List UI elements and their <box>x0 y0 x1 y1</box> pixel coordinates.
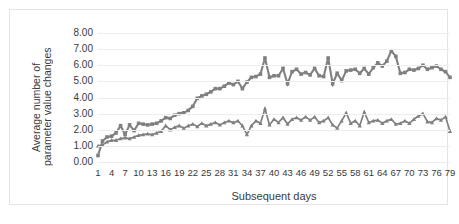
y-axis-tick-label: 2.00 <box>74 125 93 135</box>
x-axis-title: Subsequent days <box>98 190 450 202</box>
data-point-square <box>141 122 145 126</box>
x-axis-tick-label: 34 <box>242 167 253 178</box>
data-point-square <box>304 71 308 75</box>
data-point-square <box>331 82 335 86</box>
data-point-square <box>128 123 132 127</box>
x-axis-tick-label: 4 <box>109 167 114 178</box>
gridline <box>98 162 450 163</box>
data-point-square <box>259 72 263 76</box>
data-point-square <box>110 134 114 138</box>
x-axis-tick-label: 19 <box>174 167 185 178</box>
data-point-square <box>426 67 430 71</box>
data-point-square <box>146 123 150 127</box>
data-point-square <box>281 67 285 71</box>
gridline <box>98 130 450 131</box>
x-axis-tick-label: 40 <box>269 167 280 178</box>
series-triangles-markers <box>96 107 452 148</box>
gridline <box>98 98 450 99</box>
data-point-square <box>349 68 353 72</box>
x-axis-tick-label: 22 <box>187 167 198 178</box>
y-axis-tick-label: 1.00 <box>74 141 93 151</box>
data-point-square <box>159 119 163 123</box>
data-point-square <box>191 105 195 109</box>
y-axis-tick-labels: 8.007.006.005.004.003.002.001.000.00 <box>51 27 93 167</box>
data-point-triangle <box>254 119 258 123</box>
x-axis-tick-label: 43 <box>282 167 293 178</box>
data-point-square <box>335 72 339 76</box>
y-axis-tick-label: 0.00 <box>74 157 93 167</box>
x-axis-tick-label: 49 <box>309 167 320 178</box>
data-point-triangle <box>443 115 447 119</box>
x-axis-tick-label: 7 <box>122 167 127 178</box>
data-point-square <box>358 72 362 76</box>
data-point-square <box>353 67 357 71</box>
x-axis-tick-label: 73 <box>418 167 429 178</box>
gridline <box>98 146 450 147</box>
data-point-square <box>223 84 227 88</box>
data-point-square <box>272 74 276 78</box>
data-point-square <box>362 67 366 71</box>
data-point-square <box>186 109 190 113</box>
y-axis-tick-label: 4.00 <box>74 93 93 103</box>
data-point-square <box>295 67 299 71</box>
data-point-square <box>326 56 330 60</box>
data-point-triangle <box>313 115 317 119</box>
data-point-triangle <box>200 121 204 125</box>
plot-area <box>98 33 450 162</box>
x-axis-tick-label: 64 <box>377 167 388 178</box>
data-point-triangle <box>326 116 330 120</box>
y-axis-tick-label: 8.00 <box>74 28 93 38</box>
gridline <box>98 65 450 66</box>
data-point-square <box>101 139 105 143</box>
y-axis-tick-label: 7.00 <box>74 44 93 54</box>
x-axis-tick-label: 31 <box>228 167 239 178</box>
x-axis-tick-labels: 1471013161922252831343740434649525558616… <box>98 167 450 181</box>
data-point-square <box>114 131 118 135</box>
data-point-square <box>119 124 123 128</box>
data-point-square <box>150 122 154 126</box>
y-axis-tick-label: 3.00 <box>74 109 93 119</box>
data-point-square <box>205 92 209 96</box>
chart-container: Average number of parameter value change… <box>9 9 448 205</box>
data-point-square <box>299 72 303 76</box>
data-point-square <box>214 87 218 91</box>
gridline <box>98 49 450 50</box>
data-point-square <box>417 67 421 71</box>
data-point-square <box>313 67 317 71</box>
x-axis-tick-label: 25 <box>201 167 212 178</box>
x-axis-tick-label: 61 <box>363 167 374 178</box>
data-point-square <box>371 66 375 70</box>
data-point-triangle <box>281 116 285 120</box>
gridline <box>98 81 450 82</box>
gridline <box>98 33 450 34</box>
data-point-triangle <box>353 119 357 123</box>
data-point-square <box>399 72 403 76</box>
x-axis-tick-label: 1 <box>95 167 100 178</box>
data-point-square <box>412 68 416 72</box>
data-point-square <box>394 55 398 59</box>
x-axis-tick-label: 16 <box>160 167 171 178</box>
data-point-square <box>430 66 434 70</box>
data-point-square <box>164 116 168 120</box>
data-point-square <box>137 122 141 126</box>
x-axis-tick-label: 70 <box>404 167 415 178</box>
x-axis-tick-label: 13 <box>147 167 158 178</box>
gridline <box>98 114 450 115</box>
series-squares-line <box>98 51 450 156</box>
data-point-square <box>263 56 267 60</box>
data-point-triangle <box>272 117 276 121</box>
data-point-square <box>96 154 100 158</box>
data-point-square <box>444 70 448 74</box>
data-point-square <box>209 90 213 94</box>
x-axis-tick-label: 10 <box>133 167 144 178</box>
y-axis-tick-label: 6.00 <box>74 60 93 70</box>
data-point-square <box>250 76 254 80</box>
x-axis-tick-label: 58 <box>350 167 361 178</box>
x-axis-tick-label: 67 <box>391 167 402 178</box>
data-point-square <box>268 76 272 80</box>
x-axis-tick-label: 28 <box>215 167 226 178</box>
data-point-square <box>290 70 294 74</box>
y-axis-tick-label: 5.00 <box>74 76 93 86</box>
data-point-square <box>439 67 443 71</box>
data-point-square <box>344 69 348 73</box>
